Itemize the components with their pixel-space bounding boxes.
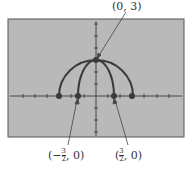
label-left-point: (−32, 0) — [48, 148, 84, 163]
graph — [0, 0, 192, 175]
paren-close: , 0) — [124, 149, 142, 162]
label-right-point: (32, 0) — [115, 148, 142, 163]
paren-close: , 0) — [66, 149, 84, 162]
minus-sign: − — [52, 149, 61, 162]
label-top-point: (0, 3) — [112, 0, 142, 13]
